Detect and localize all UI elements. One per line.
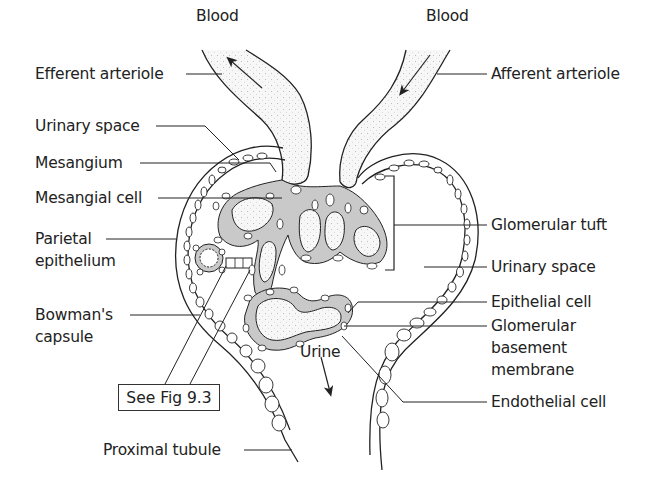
label-proximal-tubule: Proximal tubule	[103, 439, 221, 461]
efferent-arteriole-vessel	[202, 50, 311, 184]
label-bowmans-capsule: Bowman's capsule	[35, 304, 113, 348]
label-efferent-arteriole: Efferent arteriole	[35, 63, 164, 85]
blood-label-right: Blood	[426, 5, 469, 27]
label-urinary-space-right: Urinary space	[491, 256, 596, 278]
label-afferent-arteriole: Afferent arteriole	[491, 63, 620, 85]
label-mesangial-cell: Mesangial cell	[35, 187, 142, 209]
glomerulus-diagram: Blood Blood Urine Efferent arteriole Uri…	[0, 0, 666, 483]
label-glomerular-tuft: Glomerular tuft	[491, 214, 607, 236]
see-fig-reference-box: See Fig 9.3	[118, 384, 220, 411]
label-mesangium: Mesangium	[35, 152, 123, 174]
label-glomerular-basement-membrane: Glomerular basement membrane	[491, 315, 576, 381]
blood-label-left: Blood	[196, 5, 239, 27]
urine-label: Urine	[300, 341, 340, 363]
label-endothelial-cell: Endothelial cell	[491, 391, 606, 413]
label-parietal-epithelium: Parietal epithelium	[35, 228, 116, 272]
label-epithelial-cell: Epithelial cell	[491, 291, 591, 313]
glomerular-tuft-bracket	[385, 176, 394, 270]
label-urinary-space-left: Urinary space	[35, 115, 140, 137]
